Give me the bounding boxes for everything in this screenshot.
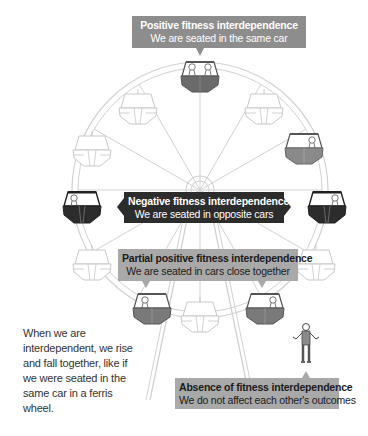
car-partial-right xyxy=(246,293,284,324)
caption-text: When we are interdependent, we rise and … xyxy=(23,326,143,416)
pointer-partial-left xyxy=(142,281,150,288)
label-title: Positive fitness interdependence xyxy=(136,19,302,32)
label-subtitle: We do not affect each other's outcomes xyxy=(179,394,335,407)
car-right-upper xyxy=(285,133,323,164)
label-negative-interdependence: Negative fitness interdependence We are … xyxy=(124,192,284,223)
label-absence-interdependence: Absence of fitness interdependence We do… xyxy=(175,378,339,409)
person-shrugging-icon xyxy=(293,324,319,363)
car-positive-top xyxy=(181,61,219,92)
pointer-negative-left xyxy=(117,198,124,216)
car-partial-left xyxy=(133,293,171,324)
pointer-partial-right xyxy=(258,281,266,288)
label-title: Partial positive fitness interdependence xyxy=(122,252,294,265)
car-negative-left xyxy=(63,191,101,223)
label-positive-interdependence: Positive fitness interdependence We are … xyxy=(132,16,306,48)
pointer-positive xyxy=(196,48,204,56)
label-subtitle: We are seated in the same car xyxy=(136,32,302,45)
label-title: Negative fitness interdependence xyxy=(128,195,280,208)
label-title: Absence of fitness interdependence xyxy=(179,381,335,394)
label-subtitle: We are seated in cars close together xyxy=(122,265,294,278)
pointer-absence xyxy=(302,371,310,378)
car-negative-right xyxy=(308,191,346,223)
label-partial-interdependence: Partial positive fitness interdependence… xyxy=(118,249,298,281)
label-subtitle: We are seated in opposite cars xyxy=(128,208,280,221)
